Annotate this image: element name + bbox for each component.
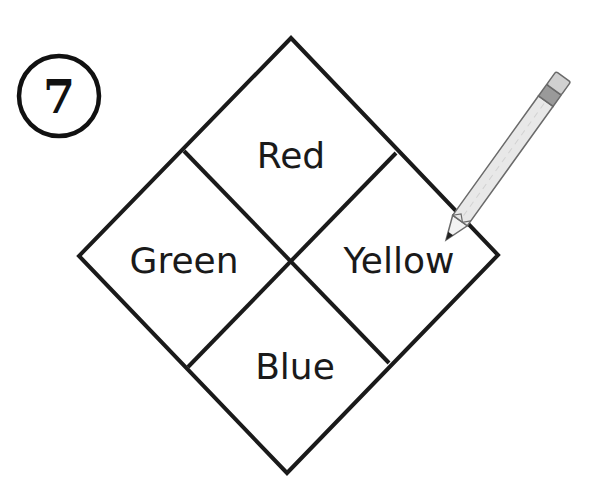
- circled-number-icon: 7: [19, 56, 99, 136]
- puzzle-canvas: 7 Red Green Yellow Blue: [0, 0, 603, 502]
- pencil-icon: [439, 72, 571, 246]
- region-label-left: Green: [129, 240, 238, 281]
- puzzle-number: 7: [43, 70, 75, 124]
- region-label-top: Red: [257, 135, 325, 176]
- region-label-right: Yellow: [343, 240, 455, 281]
- region-label-bottom: Blue: [255, 346, 335, 387]
